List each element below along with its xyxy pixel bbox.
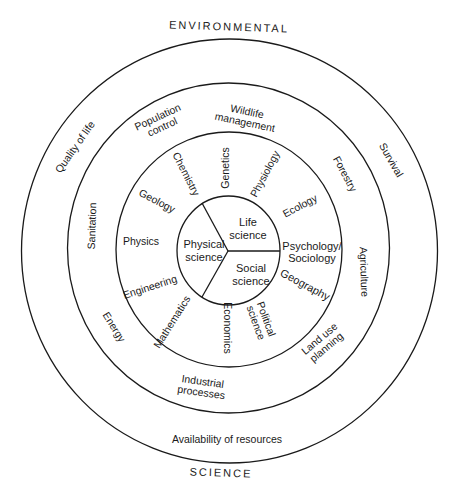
- concentric-circles: [0, 0, 455, 499]
- label-physics: Physics: [123, 236, 159, 247]
- core-life-science: Life science: [229, 216, 266, 242]
- label-economics: Economics: [222, 302, 233, 353]
- label-agriculture: Agriculture: [358, 247, 371, 298]
- label-genetics: Genetics: [220, 147, 231, 188]
- environmental-science-diagram: ENVIRONMENTAL SCIENCE Life science Physi…: [0, 0, 455, 499]
- core-social-science: Social science: [232, 262, 269, 288]
- core-physical-science: Physical science: [184, 238, 225, 264]
- label-availability-of-resources: Availability of resources: [172, 434, 282, 445]
- label-sanitation: Sanitation: [86, 202, 99, 249]
- title-science: SCIENCE: [189, 466, 252, 479]
- label-psychology-sociology: Psychology/ Sociology: [282, 240, 341, 264]
